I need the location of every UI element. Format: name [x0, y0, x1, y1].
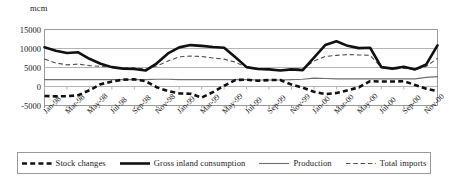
legend-label: Gross inland consumption	[154, 158, 246, 168]
legend-item-total-imports[interactable]: Total imports	[339, 158, 434, 168]
legend-label: Production	[293, 158, 331, 168]
legend-swatch-icon	[22, 160, 52, 167]
legend-swatch-icon	[259, 160, 289, 167]
legend-item-stock-changes[interactable]: Stock changes	[15, 158, 113, 168]
legend-swatch-icon	[346, 160, 376, 167]
legend-label: Total imports	[380, 158, 427, 168]
legend-label: Stock changes	[56, 158, 106, 168]
legend-item-gross-inland-consumption[interactable]: Gross inland consumption	[113, 158, 253, 168]
chart-legend: Stock changesGross inland consumptionPro…	[17, 152, 431, 174]
legend-swatch-icon	[120, 160, 150, 167]
chart-container: mcm 150001000050000-5000 Jan-98Mar-98May…	[0, 0, 449, 180]
series-line-stock-changes	[45, 79, 438, 97]
legend-item-production[interactable]: Production	[252, 158, 338, 168]
